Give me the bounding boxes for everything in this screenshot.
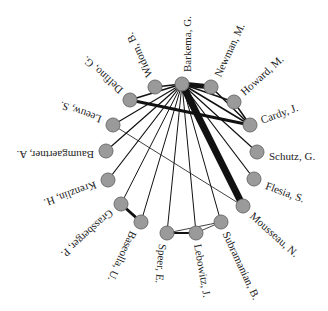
node-label-grassberger: Grassberger, P. [59,208,116,261]
edge-barkema-speer [167,84,182,233]
node-baumgaertner [99,144,113,158]
node-lebowitz [189,226,203,240]
node-label-widom: Widom, B. [123,31,154,80]
node-label-cardy: Cardy, J. [259,101,300,126]
nodes-layer [99,77,264,240]
node-grassberger [114,197,128,211]
node-label-delfino: Delfino, G. [80,54,125,96]
node-flesia [247,172,261,186]
node-schutz [250,145,264,159]
node-cardy [243,118,257,132]
node-newman [204,80,218,94]
node-baseolla [134,215,148,229]
node-label-subramanian: Subramanian, B. [221,229,263,301]
node-label-howard: Howard, M. [238,53,286,98]
node-howard [227,95,241,109]
node-label-newman: Newman, M. [212,21,247,79]
node-delfino [123,93,137,107]
node-label-baseolla: Baseolla, U. [106,229,140,283]
node-label-flesia: Flesia, S. [264,179,307,204]
labels-layer: Barkema, G.Newman, M.Howard, M.Cardy, J.… [16,16,315,302]
node-speer [160,226,174,240]
collaboration-network-diagram: Barkema, G.Newman, M.Howard, M.Cardy, J.… [0,0,328,311]
node-mousseau [236,199,250,213]
node-label-krenzlin: Krenzlin, H. [42,179,98,209]
node-label-baumgaertner: Baumgaertner, A. [16,149,94,161]
node-widom [148,80,162,94]
node-label-barkema: Barkema, G. [181,16,193,72]
node-subramanian [214,215,228,229]
node-leeuw [106,118,120,132]
node-barkema [175,77,189,91]
node-label-lebowitz: Lebowitz, J. [192,243,213,299]
node-label-mousseau: Mousseau, N. [248,210,301,260]
node-label-speer: Speer, E. [154,243,169,284]
edge-barkema-krenzlin [108,84,182,180]
node-label-schutz: Schutz, G. [269,150,315,162]
node-label-leeuw: Leeuw, S. [58,99,103,125]
node-krenzlin [101,173,115,187]
